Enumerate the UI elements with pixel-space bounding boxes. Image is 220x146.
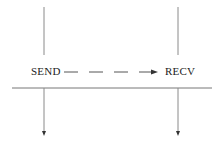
right-down-arrow-icon (176, 131, 180, 136)
arrowhead-icon (151, 70, 158, 75)
send-label: SEND (31, 65, 61, 77)
recv-label: RECV (165, 65, 195, 77)
left-down-arrow-icon (42, 131, 46, 136)
